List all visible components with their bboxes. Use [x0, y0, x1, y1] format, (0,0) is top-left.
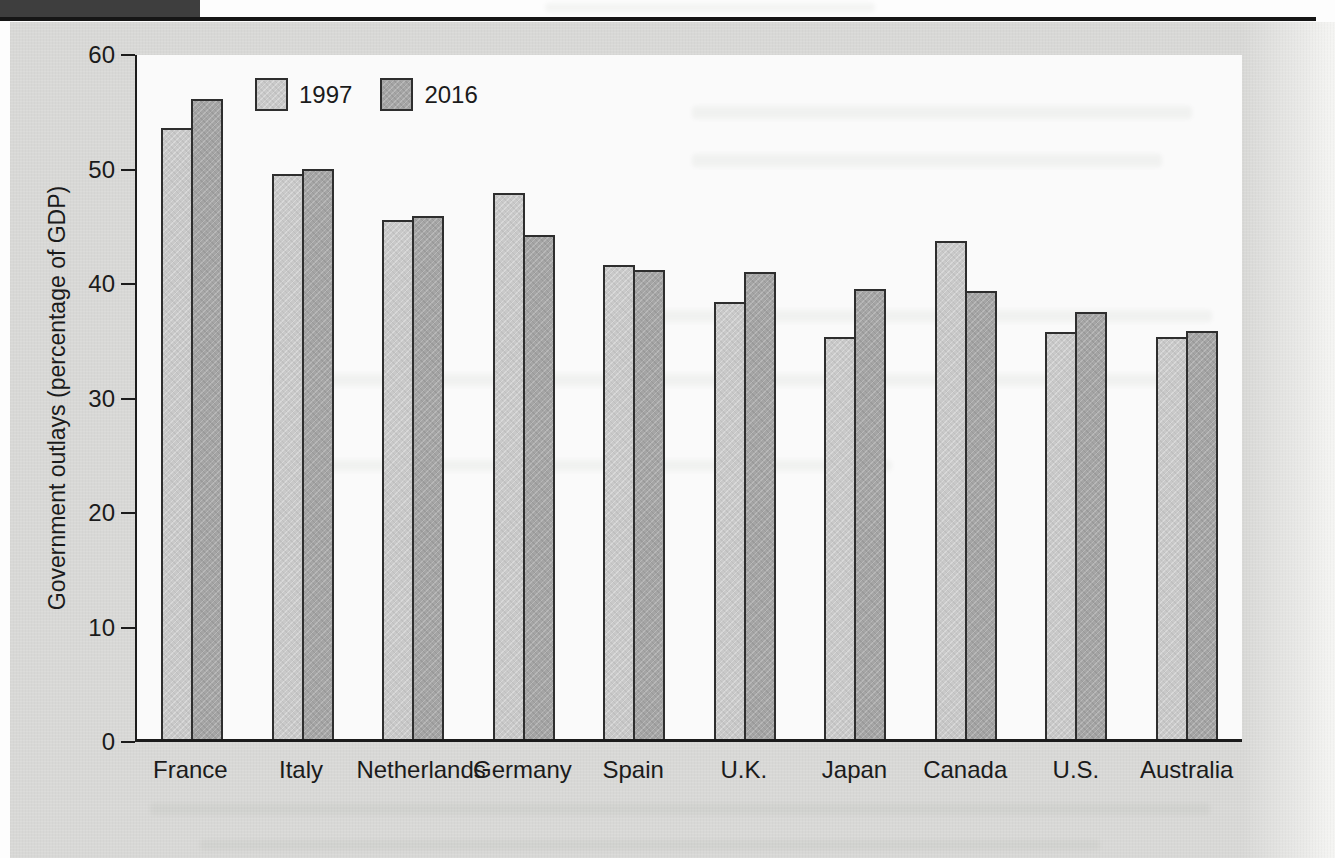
bar-2016-netherlands — [412, 216, 444, 739]
bar-1997-netherlands — [382, 220, 414, 739]
y-tick-label: 40 — [45, 271, 115, 297]
bar-2016-us — [1075, 312, 1107, 740]
x-axis-label-germany: Germany — [467, 756, 578, 784]
bar-group-italy — [248, 55, 359, 739]
bar-group-australia — [1132, 55, 1243, 739]
bar-2016-canada — [965, 291, 997, 739]
y-tick-label: 60 — [45, 42, 115, 68]
bars-container — [137, 55, 1242, 739]
plot-area: 1997 2016 — [135, 55, 1242, 742]
y-tick-mark — [121, 398, 135, 400]
bar-group-japan — [800, 55, 911, 739]
y-tick-mark — [121, 512, 135, 514]
y-tick-mark — [121, 283, 135, 285]
x-axis-label-us: U.S. — [1021, 756, 1132, 784]
legend-label-1997: 1997 — [299, 78, 352, 111]
x-axis-label-italy: Italy — [246, 756, 357, 784]
bar-group-netherlands — [358, 55, 469, 739]
x-axis-label-japan: Japan — [799, 756, 910, 784]
x-axis-label-australia: Australia — [1131, 756, 1242, 784]
y-tick-label: 10 — [45, 615, 115, 641]
y-axis: 0102030405060 — [0, 55, 135, 742]
x-axis-label-netherlands: Netherlands — [356, 756, 467, 784]
legend: 1997 2016 — [255, 78, 478, 111]
bar-1997-germany — [493, 193, 525, 739]
y-tick-label: 50 — [45, 157, 115, 183]
y-tick-label: 20 — [45, 500, 115, 526]
y-tick-mark — [121, 741, 135, 743]
scanned-textbook-page: Government outlays (percentage of GDP) 0… — [0, 0, 1335, 858]
bar-group-germany — [469, 55, 580, 739]
bar-1997-italy — [272, 174, 304, 739]
x-axis-labels: FranceItalyNetherlandsGermanySpainU.K.Ja… — [135, 742, 1242, 788]
bar-1997-spain — [603, 265, 635, 739]
bar-group-spain — [579, 55, 690, 739]
bar-group-france — [137, 55, 248, 739]
bar-2016-uk — [744, 272, 776, 739]
y-tick-label: 0 — [45, 729, 115, 755]
y-tick-mark — [121, 54, 135, 56]
bar-2016-spain — [633, 270, 665, 739]
bar-1997-france — [161, 128, 193, 739]
legend-swatch-1997 — [255, 78, 288, 111]
y-tick-label: 30 — [45, 386, 115, 412]
bar-2016-japan — [854, 289, 886, 739]
bar-1997-us — [1045, 332, 1077, 739]
bar-2016-australia — [1186, 331, 1218, 739]
legend-label-2016: 2016 — [424, 78, 477, 111]
bar-group-us — [1021, 55, 1132, 739]
x-axis-label-france: France — [135, 756, 246, 784]
bar-1997-japan — [824, 337, 856, 739]
bar-2016-italy — [302, 169, 334, 739]
bar-chart: Government outlays (percentage of GDP) 0… — [0, 0, 1335, 858]
bar-group-uk — [690, 55, 801, 739]
x-axis-label-uk: U.K. — [689, 756, 800, 784]
x-axis-label-canada: Canada — [910, 756, 1021, 784]
y-tick-mark — [121, 627, 135, 629]
bar-1997-canada — [935, 241, 967, 739]
bar-2016-germany — [523, 235, 555, 739]
x-axis-label-spain: Spain — [578, 756, 689, 784]
legend-swatch-2016 — [380, 78, 413, 111]
bar-2016-france — [191, 99, 223, 739]
bar-1997-uk — [714, 302, 746, 739]
bar-group-canada — [911, 55, 1022, 739]
bar-1997-australia — [1156, 337, 1188, 739]
y-tick-mark — [121, 169, 135, 171]
